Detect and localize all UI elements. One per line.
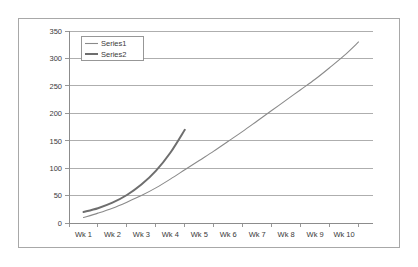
x-axis-tick-marks xyxy=(69,223,359,227)
x-axis-tick-label: Wk 8 xyxy=(278,230,295,239)
x-axis-tick-label: Wk 3 xyxy=(133,230,150,239)
y-axis-tick-label: 200 xyxy=(49,109,62,118)
x-axis-tick-label: Wk 5 xyxy=(191,230,208,239)
y-axis-tick-labels: 050100150200250300350 xyxy=(49,27,62,228)
x-axis-tick-label: Wk 9 xyxy=(307,230,324,239)
y-axis-tick-label: 150 xyxy=(49,137,62,146)
y-axis-tick-label: 0 xyxy=(58,219,62,228)
x-axis-tick-label: Wk 7 xyxy=(249,230,266,239)
x-axis-tick-label: Wk 1 xyxy=(75,230,92,239)
x-axis-tick-labels: Wk 1Wk 2Wk 3Wk 4Wk 5Wk 6Wk 7Wk 8Wk 9Wk 1… xyxy=(75,230,355,239)
legend-label-1: Series1 xyxy=(101,39,126,48)
x-axis-tick-label: Wk 2 xyxy=(104,230,121,239)
x-axis-tick-label: Wk 10 xyxy=(333,230,354,239)
y-axis-tick-label: 350 xyxy=(49,27,62,36)
y-axis-tick-label: 50 xyxy=(54,191,62,200)
chart-legend: Series1Series2 xyxy=(81,36,143,60)
series-line-1 xyxy=(83,42,358,218)
series-lines xyxy=(83,42,358,218)
line-chart: 050100150200250300350 Wk 1Wk 2Wk 3Wk 4Wk… xyxy=(19,19,399,247)
legend-label-2: Series2 xyxy=(101,50,126,59)
y-axis-tick-label: 250 xyxy=(49,82,62,91)
y-axis-tick-label: 100 xyxy=(49,164,62,173)
x-axis-tick-label: Wk 6 xyxy=(220,230,237,239)
chart-frame: 050100150200250300350 Wk 1Wk 2Wk 3Wk 4Wk… xyxy=(18,18,400,248)
series-line-2 xyxy=(83,130,184,212)
x-axis-tick-label: Wk 4 xyxy=(162,230,179,239)
y-axis-tick-label: 300 xyxy=(49,54,62,63)
y-axis-tick-marks xyxy=(65,31,69,223)
